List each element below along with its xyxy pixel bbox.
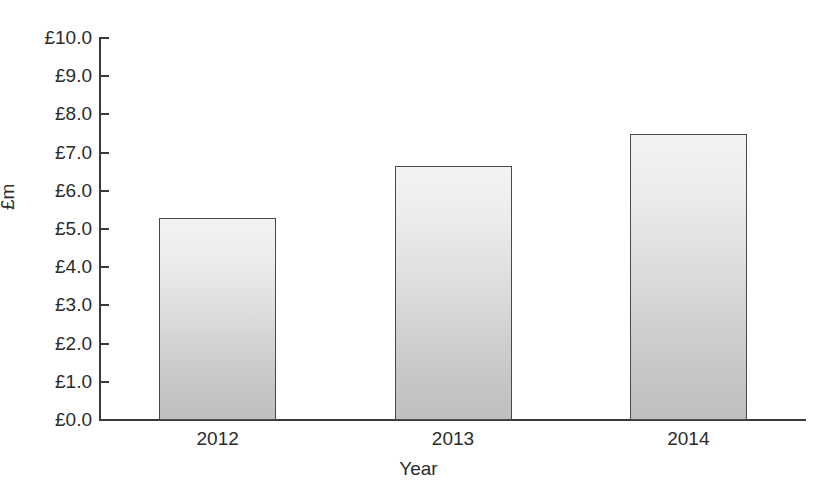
y-axis-tick <box>100 75 109 77</box>
y-axis-line <box>99 37 101 421</box>
y-axis-tick-label: £2.0 <box>0 334 92 353</box>
y-axis-tick <box>100 343 109 345</box>
y-axis-tick-label: £7.0 <box>0 143 92 162</box>
y-axis-tick <box>100 304 109 306</box>
y-axis-tick <box>100 190 109 192</box>
y-axis-tick-label-text: £4.0 <box>6 257 92 276</box>
y-axis-tick-label-text: £8.0 <box>6 104 92 123</box>
y-axis-tick <box>100 266 109 268</box>
y-axis-tick <box>100 381 109 383</box>
bar <box>630 134 747 421</box>
y-axis-tick-label: £1.0 <box>0 372 92 391</box>
y-axis-tick-label-text: £7.0 <box>6 143 92 162</box>
x-axis-tick-label: 2012 <box>158 428 278 450</box>
y-axis-tick <box>100 152 109 154</box>
y-axis-tick-label-text: £3.0 <box>6 295 92 314</box>
y-axis-tick-label: £5.0 <box>0 219 92 238</box>
y-axis-tick-label-text: £9.0 <box>6 66 92 85</box>
bar-chart: £m £0.0£1.0£2.0£3.0£4.0£5.0£6.0£7.0£8.0£… <box>0 0 837 497</box>
y-axis-tick-label-text: £2.0 <box>6 334 92 353</box>
bar <box>159 218 276 420</box>
y-axis-tick-label: £3.0 <box>0 295 92 314</box>
y-axis-tick-label: £9.0 <box>0 66 92 85</box>
y-axis-tick <box>100 37 109 39</box>
bar <box>395 166 512 420</box>
x-axis-tick-label: 2013 <box>393 428 513 450</box>
y-axis-tick-label: £6.0 <box>0 181 92 200</box>
y-axis-tick-label: £8.0 <box>0 104 92 123</box>
y-axis-tick-label: £0.0 <box>0 410 92 429</box>
y-axis-tick-label: £4.0 <box>0 257 92 276</box>
x-axis-tick-label: 2014 <box>628 428 748 450</box>
x-axis-title: Year <box>0 458 837 480</box>
y-axis-tick-label-text: £5.0 <box>6 219 92 238</box>
y-axis-tick-label-text: £1.0 <box>6 372 92 391</box>
y-axis-tick <box>100 113 109 115</box>
y-axis-tick-label-text: £10.0 <box>6 28 92 47</box>
y-axis-tick-label: £10.0 <box>0 28 92 47</box>
y-axis-tick <box>100 228 109 230</box>
y-axis-tick-label-text: £0.0 <box>6 410 92 429</box>
y-axis-tick-label-text: £6.0 <box>6 181 92 200</box>
